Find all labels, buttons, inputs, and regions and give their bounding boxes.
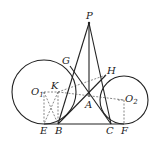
label-e: E xyxy=(39,125,48,136)
geometry-diagram: P G H K O1 A O2 E B C F xyxy=(0,0,159,150)
label-b: B xyxy=(54,125,62,136)
label-k: K xyxy=(50,80,59,91)
label-h: H xyxy=(106,65,116,76)
label-o2: O2 xyxy=(125,93,138,106)
diagram-svg: P G H K O1 A O2 E B C F xyxy=(0,0,159,150)
label-a: A xyxy=(84,99,92,110)
label-p: P xyxy=(85,10,93,21)
point-p xyxy=(88,22,90,24)
label-c: C xyxy=(106,125,114,136)
label-g: G xyxy=(62,55,70,66)
label-f: F xyxy=(120,125,129,136)
dash-k-h xyxy=(58,75,106,92)
label-o1: O1 xyxy=(31,86,44,99)
